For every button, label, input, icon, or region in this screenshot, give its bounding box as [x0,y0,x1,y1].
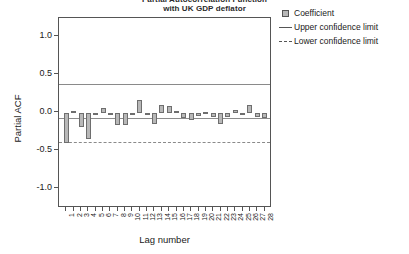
y-tick-label: 0.5 [39,68,52,78]
bar [159,105,164,113]
x-tick-label: 10 [134,213,141,221]
x-tick-mark [264,207,265,211]
bar [225,113,230,117]
x-tick-mark [256,207,257,211]
x-tick-label: 25 [245,213,252,221]
x-tick-mark [102,207,103,211]
y-tick-label: -0.5 [36,144,52,154]
y-tick-label: -1.0 [36,182,52,192]
bar [93,113,98,115]
x-tick-label: 26 [252,213,259,221]
bar [64,113,69,143]
y-axis: Partial ACF 1.00.50.0-0.5-1.0 [0,17,58,207]
x-tick-mark [117,207,118,211]
x-axis: 1234567891011121314151617181920212223242… [58,207,271,253]
bar [71,111,76,113]
x-tick-mark [168,207,169,211]
legend-item-upper-confidence: Upper confidence limit [276,20,407,34]
bar [203,112,208,114]
x-tick-label: 17 [186,213,193,221]
x-tick-label: 3 [83,213,90,217]
x-tick-label: 7 [112,213,119,217]
plot-area [58,17,271,207]
bar-group [59,18,270,206]
x-tick-mark [146,207,147,211]
x-tick-label: 24 [237,213,244,221]
x-tick-label: 15 [171,213,178,221]
x-tick-label: 28 [267,213,274,221]
bar [108,113,113,115]
x-tick-label: 27 [259,213,266,221]
x-tick-label: 14 [164,213,171,221]
x-tick-label: 6 [105,213,112,217]
x-tick-label: 21 [215,213,222,221]
bar [167,106,172,113]
x-tick-mark [153,207,154,211]
y-tick-label: 0.0 [39,106,52,116]
bar [145,113,150,115]
bar [233,110,238,113]
x-tick-mark [161,207,162,211]
bar [123,113,128,125]
x-tick-label: 13 [156,213,163,221]
x-tick-mark [227,207,228,211]
x-tick-mark [212,207,213,211]
legend-item-coefficient: Coefficient [276,6,407,20]
bar [211,113,216,117]
x-tick-label: 18 [193,213,200,221]
bar [115,113,120,125]
bar [240,113,245,115]
x-tick-mark [73,207,74,211]
x-axis-title: Lag number [58,234,271,245]
x-tick-label: 22 [223,213,230,221]
bar [130,113,135,115]
x-tick-mark [87,207,88,211]
y-tick-label: 1.0 [39,30,52,40]
x-tick-mark [80,207,81,211]
x-tick-mark [205,207,206,211]
x-tick-label: 20 [208,213,215,221]
legend-item-lower-confidence: Lower confidence limit [276,34,407,48]
bar [196,113,201,116]
legend-dashed-line-icon [276,41,294,42]
x-tick-mark [234,207,235,211]
x-tick-mark [131,207,132,211]
x-tick-mark [109,207,110,211]
x-tick-mark [176,207,177,211]
x-tick-mark [95,207,96,211]
bar [174,111,179,113]
x-tick-mark [65,207,66,211]
bar [247,105,252,113]
x-tick-label: 23 [230,213,237,221]
bar [79,113,84,127]
chart-legend: Coefficient Upper confidence limit Lower… [276,6,407,48]
x-tick-label: 8 [120,213,127,217]
x-tick-label: 1 [68,213,75,217]
x-tick-label: 5 [98,213,105,217]
x-tick-label: 11 [142,213,149,220]
legend-swatch-icon [276,10,294,17]
x-tick-label: 2 [76,213,83,217]
chart-root: Partial Autocorrelation Function with UK… [0,0,409,254]
x-tick-mark [249,207,250,211]
bar [101,108,106,113]
legend-label: Upper confidence limit [294,22,378,33]
x-tick-mark [220,207,221,211]
x-tick-label: 16 [179,213,186,221]
x-tick-label: 4 [90,213,97,217]
x-tick-mark [139,207,140,211]
bar [86,113,91,139]
bar [262,113,267,118]
x-tick-mark [183,207,184,211]
bar [218,113,223,124]
x-tick-label: 19 [201,213,208,221]
bar [255,113,260,117]
legend-label: Coefficient [294,8,334,19]
bar [189,113,194,120]
bar [152,113,157,124]
legend-label: Lower confidence limit [294,36,378,47]
x-tick-mark [190,207,191,211]
x-tick-mark [198,207,199,211]
x-tick-mark [124,207,125,211]
legend-solid-line-icon [276,27,294,28]
